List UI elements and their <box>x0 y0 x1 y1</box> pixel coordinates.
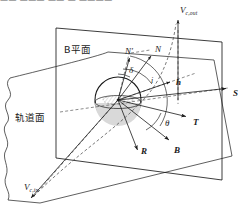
label-t-main: T <box>193 117 199 127</box>
label-orbital-plane-text: 轨道面 <box>15 112 45 123</box>
figure-root: —— ——— —— — ———— <box>0 0 250 217</box>
label-h: h <box>176 78 181 87</box>
label-inclination: i <box>151 77 153 85</box>
label-h-main: h <box>176 77 181 87</box>
label-theta-main: θ <box>165 118 169 128</box>
label-v-c-in: Vc,in <box>24 183 39 192</box>
label-v-c-in-sub: c,in <box>30 187 39 193</box>
label-delta: δ <box>129 66 133 75</box>
label-theta: θ <box>165 119 169 128</box>
label-v-c-out: Vc,out <box>180 6 198 15</box>
orbital-plane-surface <box>4 52 232 203</box>
label-n: N <box>155 45 161 54</box>
label-r: R <box>141 147 147 156</box>
label-n-prime: N′ <box>125 47 133 56</box>
label-s-main: S <box>233 88 238 98</box>
label-v-c-out-main: V <box>180 5 186 15</box>
label-n-main: N <box>155 44 161 54</box>
label-orbital-plane: 轨道面 <box>15 113 45 123</box>
label-b-vector-main: B <box>174 145 180 155</box>
label-t: T <box>193 118 199 127</box>
label-r-main: R <box>141 146 147 156</box>
label-v-c-in-main: V <box>24 182 30 192</box>
label-n-prime-mark: ′ <box>131 46 133 56</box>
label-s: S <box>233 89 238 98</box>
label-delta-main: δ <box>129 65 133 75</box>
label-inclination-main: i <box>151 76 153 85</box>
label-b-plane-text: B平面 <box>64 44 91 55</box>
label-b-vector: B <box>174 146 180 155</box>
label-b-plane: B平面 <box>64 45 91 55</box>
label-v-c-out-sub: c,out <box>186 10 198 16</box>
